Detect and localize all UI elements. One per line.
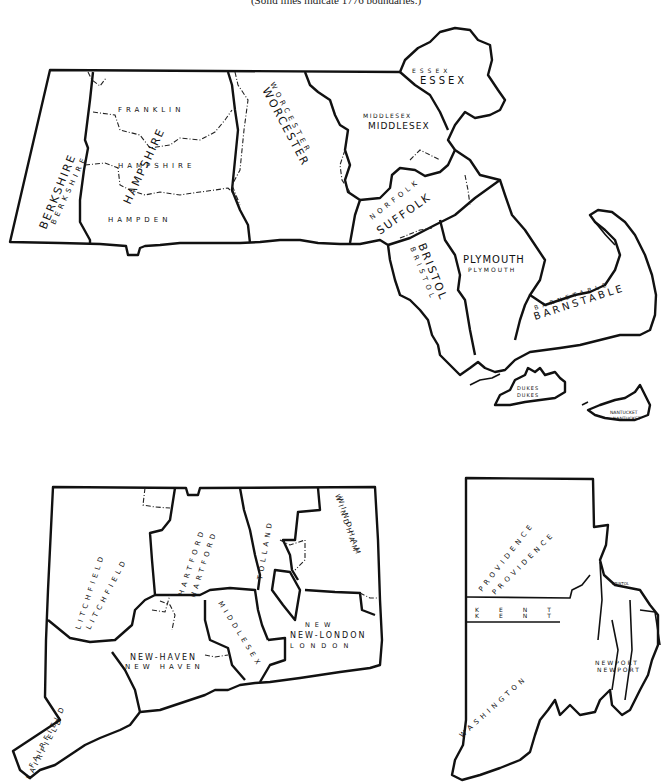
- county-label-nantucket-modern: NANTUCKET: [610, 410, 638, 415]
- county-label-new-london: NEW-LONDON: [290, 631, 366, 640]
- county-label-new-haven-modern: NEW HAVEN: [125, 663, 204, 671]
- connecticut-1776-boundaries: [48, 488, 375, 712]
- county-label-hampden: HAMPDEN: [108, 216, 171, 224]
- county-label-washington: WASHINGTON: [458, 674, 529, 739]
- rhode-island-1776-boundaries: [466, 562, 660, 700]
- county-label-new-haven: NEW-HAVEN: [130, 653, 197, 662]
- county-label-dukes: DUKES: [517, 392, 539, 398]
- county-label-bristol-ri: BRISTOL: [612, 581, 630, 586]
- county-label-middlesex: MIDDLESEX: [368, 121, 430, 131]
- county-label-newport: NEWPORT: [595, 659, 639, 666]
- county-label-kent-modern: KENT: [475, 606, 571, 613]
- county-label-hampshire-modern: HAMPSHIRE: [118, 162, 195, 170]
- massachusetts-map: BERKSHIRE BERKSHIRE FRANKLIN HAMPSHIRE H…: [0, 0, 672, 783]
- county-label-windham-modern: WINDHAM: [336, 496, 363, 559]
- county-label-middlesex-ct: MIDDLESEX: [216, 600, 264, 669]
- county-label-tolland: TOLLAND: [256, 519, 275, 582]
- county-label-newport-modern: NEWPORT: [597, 666, 641, 673]
- connecticut-labels: LITCHFIELD LITCHFIELD HARTFORD HARTFORD …: [25, 493, 367, 781]
- county-label-nantucket: NANTUCKET: [613, 416, 641, 421]
- county-label-middlesex-modern: MIDDLESEX: [363, 112, 412, 119]
- county-label-kent: KENT: [475, 612, 571, 619]
- county-label-essex-modern: ESSEX: [412, 67, 451, 74]
- county-label-plymouth: PLYMOUTH: [463, 254, 525, 265]
- county-label-new-london-modern-top: NEW: [305, 621, 335, 629]
- county-label-new-london-modern: LONDON: [290, 642, 354, 650]
- county-label-dukes-modern: DUKES: [517, 385, 539, 391]
- massachusetts-outline: [10, 28, 656, 420]
- county-label-essex: ESSEX: [420, 75, 467, 86]
- county-label-worcester: WORCESTER: [259, 85, 312, 168]
- county-label-plymouth-modern: PLYMOUTH: [468, 266, 516, 273]
- county-label-franklin: FRANKLIN: [118, 106, 184, 114]
- rhode-island-outline: [452, 478, 658, 780]
